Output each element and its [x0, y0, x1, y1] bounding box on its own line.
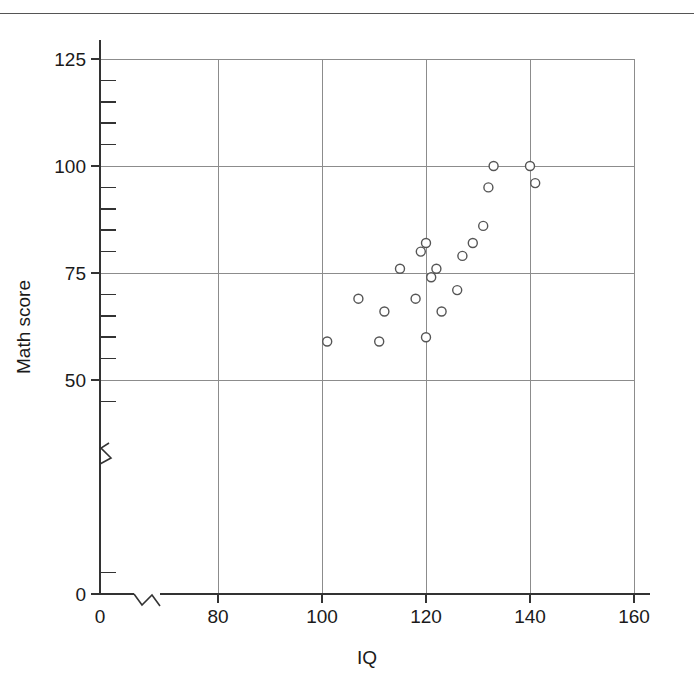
data-point-marker [484, 183, 493, 192]
gridlines-group [100, 59, 634, 594]
x-axis-tick-labels-group: 080100120140160 [95, 606, 650, 627]
y-axis-break-mark [100, 443, 111, 464]
data-point-marker [416, 247, 425, 256]
data-point-marker [411, 294, 420, 303]
x-axis-tick-label: 160 [618, 606, 650, 627]
y-axis-tick-label: 0 [75, 584, 86, 605]
y-axis-tick-labels-group: 05075100125 [54, 49, 86, 605]
data-point-marker [489, 162, 498, 171]
data-point-marker [375, 337, 384, 346]
figure-container: 080100120140160 05075100125 IQ Math scor… [0, 0, 694, 678]
data-point-marker [380, 307, 389, 316]
y-axis-title: Math score [13, 280, 34, 374]
x-axis-tick-label: 80 [207, 606, 228, 627]
data-point-marker [432, 264, 441, 273]
y-axis-tick-label: 125 [54, 49, 86, 70]
y-axis-tick-label: 75 [65, 263, 86, 284]
x-axis-tick-label: 120 [410, 606, 442, 627]
data-point-marker [531, 179, 540, 188]
y-axis-tick-label: 100 [54, 156, 86, 177]
data-point-marker [422, 333, 431, 342]
axis-lines-group [100, 40, 650, 594]
minor-ticks-group [101, 80, 116, 572]
y-axis-tick-label: 50 [65, 370, 86, 391]
x-axis-break-mark [134, 594, 160, 606]
data-point-marker [526, 162, 535, 171]
x-axis-tick-label: 0 [95, 606, 106, 627]
major-ticks-group [91, 59, 634, 603]
data-point-marker [427, 273, 436, 282]
data-point-marker [354, 294, 363, 303]
data-point-marker [422, 239, 431, 248]
data-point-marker [323, 337, 332, 346]
x-axis-title: IQ [357, 647, 377, 668]
scatter-plot-svg: 080100120140160 05075100125 IQ Math scor… [0, 0, 694, 678]
x-axis-tick-label: 100 [306, 606, 338, 627]
data-points-group [323, 162, 540, 346]
data-point-marker [468, 239, 477, 248]
data-point-marker [437, 307, 446, 316]
data-point-marker [453, 286, 462, 295]
data-point-marker [396, 264, 405, 273]
data-point-marker [458, 251, 467, 260]
x-axis-tick-label: 140 [514, 606, 546, 627]
axis-break-marks-group [100, 443, 160, 606]
data-point-marker [479, 221, 488, 230]
